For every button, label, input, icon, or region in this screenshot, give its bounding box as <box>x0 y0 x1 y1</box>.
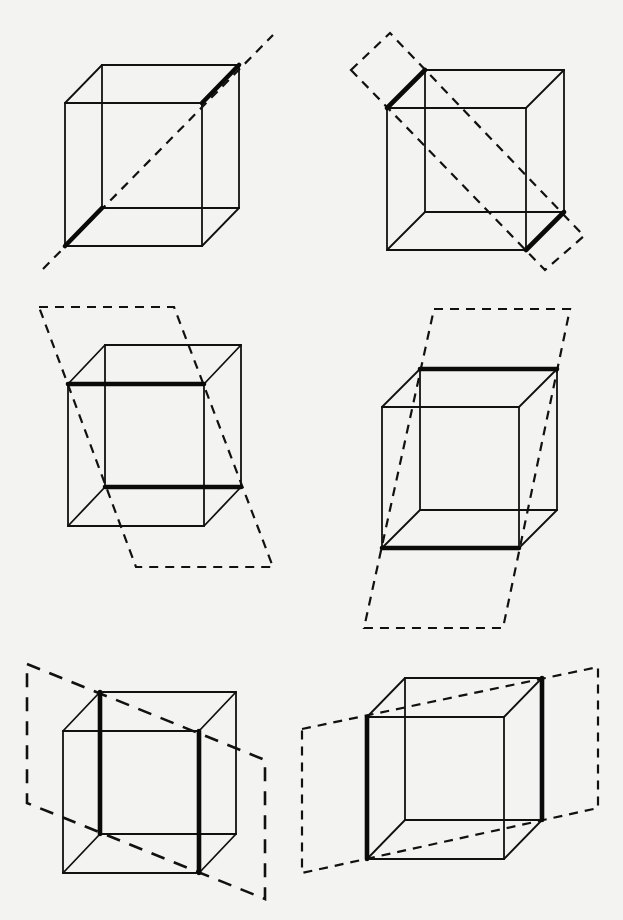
cube-5-diagram <box>27 664 265 899</box>
highlighted-edge <box>65 208 102 246</box>
cube-wireframe <box>63 692 236 873</box>
highlighted-edge <box>526 212 564 250</box>
cube-edge <box>526 70 564 108</box>
cube-edge <box>65 65 102 103</box>
symmetry-plane <box>39 307 273 567</box>
cube-4-diagram <box>364 309 570 628</box>
cube-1-diagram <box>43 35 273 269</box>
cube-edge <box>504 678 542 717</box>
cube-6-diagram <box>302 667 598 873</box>
cube-edge <box>199 692 236 731</box>
cube-edge <box>202 208 239 246</box>
symmetry-plane <box>351 33 584 270</box>
cube-3-diagram <box>39 307 273 567</box>
cube-edge <box>382 510 420 548</box>
cube-edge <box>63 692 100 731</box>
cube-2-diagram <box>351 33 584 270</box>
cube-wireframe <box>68 345 241 526</box>
cube-symmetry-figure <box>0 0 623 920</box>
highlighted-edge <box>202 65 239 103</box>
cube-edge <box>199 834 236 873</box>
highlighted-edge <box>387 70 425 108</box>
cube-wireframe <box>382 369 557 548</box>
cube-edge <box>204 345 241 384</box>
cube-edge <box>387 212 425 250</box>
cube-edge <box>504 820 542 859</box>
cube-edge <box>68 487 105 526</box>
symmetry-plane <box>302 667 598 873</box>
cube-edge <box>367 820 405 859</box>
figure-canvas <box>0 0 623 920</box>
cube-wireframe <box>387 70 564 250</box>
cube-edge <box>204 487 241 526</box>
symmetry-plane <box>364 309 570 628</box>
cube-edge <box>63 834 100 873</box>
cube-wireframe <box>367 678 542 859</box>
cube-edge <box>68 345 105 384</box>
